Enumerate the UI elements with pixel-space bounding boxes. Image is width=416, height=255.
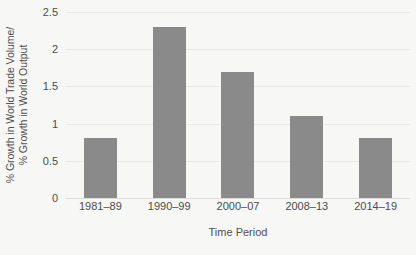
y-axis-title-line-1: % Growth in World Trade Volume/ xyxy=(4,27,17,183)
y-axis-tick-label: 2 xyxy=(52,43,58,55)
bar-chart-figure: % Growth in World Trade Volume/ % Growth… xyxy=(0,0,416,255)
plot-area xyxy=(66,12,410,198)
y-axis-tick-label: 0 xyxy=(52,192,58,204)
bar xyxy=(359,138,392,198)
bar xyxy=(221,72,254,198)
x-axis-tick-label: 2014–19 xyxy=(341,200,410,212)
y-axis-tick-labels: 00.511.522.5 xyxy=(30,0,62,210)
gridline xyxy=(66,198,410,199)
bars-layer xyxy=(66,12,410,198)
bar-slot xyxy=(341,12,410,198)
x-axis-title: Time Period xyxy=(66,226,410,238)
x-axis-tick-label: 2008–13 xyxy=(272,200,341,212)
x-axis-tick-label: 1981–89 xyxy=(66,200,135,212)
y-axis-tick-label: 0.5 xyxy=(43,155,58,167)
bar-slot xyxy=(66,12,135,198)
bar-slot xyxy=(135,12,204,198)
y-axis-title: % Growth in World Trade Volume/ % Growth… xyxy=(0,0,34,210)
x-axis-tick-label: 1990–99 xyxy=(135,200,204,212)
x-axis-tick-labels: 1981–891990–992000–072008–132014–19 xyxy=(66,200,410,218)
y-axis-tick-label: 1.5 xyxy=(43,80,58,92)
y-axis-tick-label: 2.5 xyxy=(43,6,58,18)
bar xyxy=(84,138,117,198)
y-axis-title-line-2: % Growth in World Output xyxy=(17,27,30,183)
bar-slot xyxy=(204,12,273,198)
y-axis-tick-label: 1 xyxy=(52,118,58,130)
bar xyxy=(290,116,323,198)
bar xyxy=(153,27,186,198)
bar-slot xyxy=(272,12,341,198)
x-axis-tick-label: 2000–07 xyxy=(204,200,273,212)
